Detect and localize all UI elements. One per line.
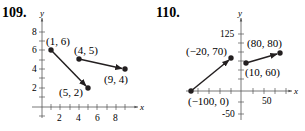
point-label: (4, 5) <box>74 44 98 57</box>
point-label: (−100, 0) <box>188 95 229 108</box>
point <box>85 85 90 90</box>
y-tick: 2 <box>32 83 37 93</box>
y-axis-label: y <box>237 8 242 18</box>
point <box>243 60 248 65</box>
y-tick: 125 <box>220 29 235 39</box>
point-label: (9, 4) <box>104 73 128 86</box>
x-tick: 4 <box>76 113 81 123</box>
point <box>277 50 282 55</box>
x-tick: 2 <box>57 113 62 123</box>
y-tick: 8 <box>32 27 37 37</box>
problem-number: 109. <box>2 5 27 20</box>
point-label: (1, 6) <box>46 35 70 48</box>
point-label: (−20, 70) <box>186 45 227 58</box>
x-axis-label: x <box>293 86 298 96</box>
y-tick: -50 <box>222 109 235 119</box>
point <box>76 56 81 61</box>
point <box>188 88 193 93</box>
y-tick: 6 <box>32 45 37 55</box>
x-axis-label: x <box>139 102 144 112</box>
y-axis-label: y <box>39 8 44 18</box>
graph-109: 109. y x 2 4 6 8 2 4 6 8 <box>2 5 144 123</box>
graph-110: 110. y x 125 -50 50 (−100, 0) (−20, 70) … <box>156 5 298 120</box>
point <box>122 66 127 71</box>
point-label: (80, 80) <box>247 37 282 50</box>
point <box>48 47 53 52</box>
x-tick: 6 <box>95 113 100 123</box>
x-tick: 50 <box>262 96 272 106</box>
x-tick: 8 <box>113 113 118 123</box>
vector-segment <box>79 59 122 69</box>
point-label: (10, 60) <box>245 66 280 79</box>
vector-segment <box>191 60 229 91</box>
vector-segment <box>246 54 277 63</box>
point <box>228 55 233 60</box>
problem-number: 110. <box>156 5 180 20</box>
point-label: (5, 2) <box>59 86 83 99</box>
figure: 109. y x 2 4 6 8 2 4 6 8 <box>0 0 305 131</box>
y-tick: 4 <box>32 64 37 74</box>
